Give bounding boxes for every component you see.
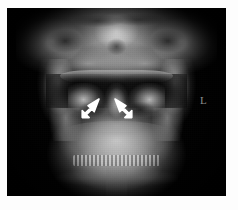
trachea-air-column	[106, 166, 128, 196]
tooth-row	[73, 155, 161, 166]
lower-neck-soft-tissue	[55, 170, 178, 196]
radiograph-image	[7, 8, 226, 196]
annotation-arrow-left-icon	[78, 95, 104, 121]
upper-incisor-shadow	[60, 70, 174, 83]
laterality-marker-left: L	[200, 95, 207, 106]
skull-base-region	[16, 8, 217, 83]
mandible-body	[46, 121, 186, 192]
paranasal-sinus-region	[25, 12, 209, 68]
radiograph-figure: L	[0, 0, 238, 210]
mandible-ramus-left	[22, 59, 81, 142]
annotation-arrow-right-icon	[110, 95, 136, 121]
